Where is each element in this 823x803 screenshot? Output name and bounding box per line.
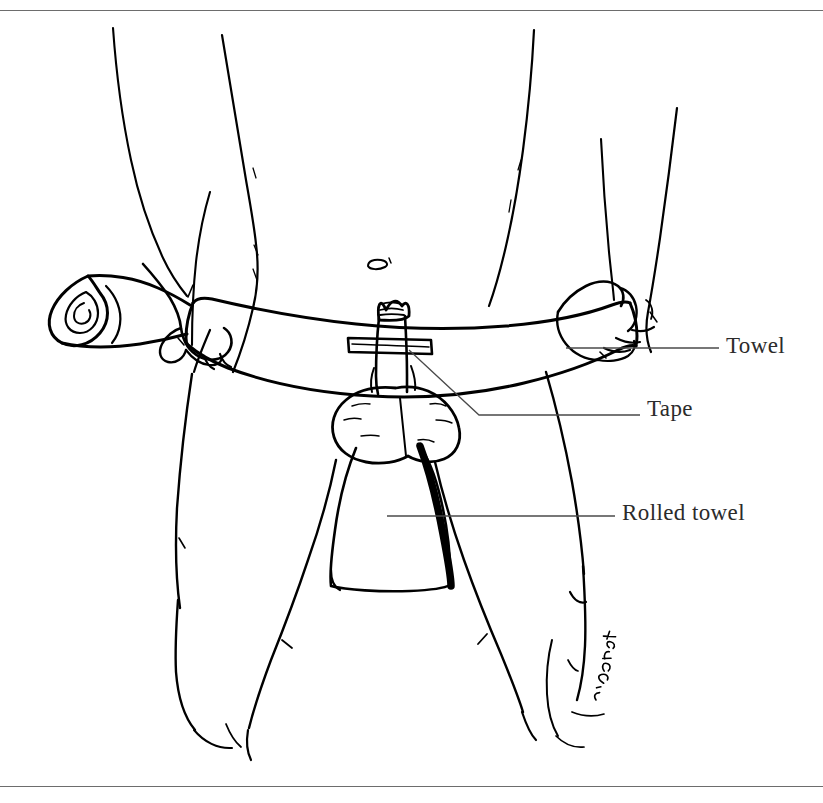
label-rolled-towel: Rolled towel bbox=[622, 500, 745, 526]
scrotum-texture-e bbox=[436, 420, 452, 423]
left-knee-detail bbox=[226, 724, 241, 747]
left-inner-thigh bbox=[249, 460, 336, 728]
left-knee-edge bbox=[176, 600, 195, 730]
label-towel: Towel bbox=[726, 333, 785, 359]
left-arm-inner bbox=[192, 192, 210, 345]
right-knee-block bbox=[547, 640, 558, 736]
right-arm-inner bbox=[601, 139, 614, 300]
right-thigh bbox=[546, 372, 584, 574]
rolled-towel-wedge bbox=[331, 444, 451, 591]
left-thigh bbox=[176, 374, 192, 608]
left-inner-thigh-tick bbox=[282, 640, 292, 648]
left-torso-edge bbox=[222, 35, 258, 372]
figure-drawing bbox=[0, 0, 823, 803]
scrotum-texture-c bbox=[361, 435, 379, 436]
scrotum-texture-b bbox=[344, 418, 361, 420]
towel-rolled-end-spiral-mid bbox=[66, 292, 98, 333]
right-knee-detail-c bbox=[556, 736, 584, 747]
left-arm bbox=[113, 28, 187, 296]
left-inner-thigh-lower bbox=[247, 730, 251, 760]
tape-strip-inner-line bbox=[352, 344, 429, 347]
label-tape: Tape bbox=[647, 396, 693, 422]
right-inner-thigh-tick bbox=[478, 634, 487, 644]
navel-mark bbox=[368, 260, 387, 269]
right-arm bbox=[646, 108, 677, 352]
artist-signature bbox=[590, 630, 617, 701]
penis-shaft bbox=[376, 318, 379, 394]
right-torso-crease-b bbox=[509, 200, 511, 212]
left-hand-grip bbox=[143, 264, 231, 360]
left-thigh-crease bbox=[179, 538, 185, 548]
towel-rolled-end-spiral-inner bbox=[74, 303, 90, 324]
illustration-page: Towel Tape Rolled towel bbox=[0, 0, 823, 803]
scrotum bbox=[333, 387, 460, 463]
navel-tick bbox=[389, 258, 391, 263]
right-thigh-edge-lower bbox=[577, 566, 585, 700]
right-knee-detail-a bbox=[568, 660, 578, 671]
penis-glans-texture-b bbox=[380, 309, 403, 311]
left-torso-crease-a bbox=[253, 168, 256, 178]
scrotum-texture-f bbox=[418, 440, 434, 442]
penis-glans-texture-c bbox=[380, 314, 404, 315]
left-torso-crease-c bbox=[253, 269, 257, 280]
right-knee-detail-b bbox=[572, 712, 604, 716]
left-arm-crease bbox=[188, 285, 193, 297]
left-knee-inner-curve bbox=[194, 730, 232, 748]
right-torso-edge bbox=[489, 30, 534, 306]
scrotum-crease-center bbox=[400, 398, 406, 456]
scrotum-texture-d bbox=[430, 404, 446, 406]
right-inner-thigh-lower bbox=[522, 712, 536, 740]
scrotum-texture-a bbox=[352, 404, 370, 406]
